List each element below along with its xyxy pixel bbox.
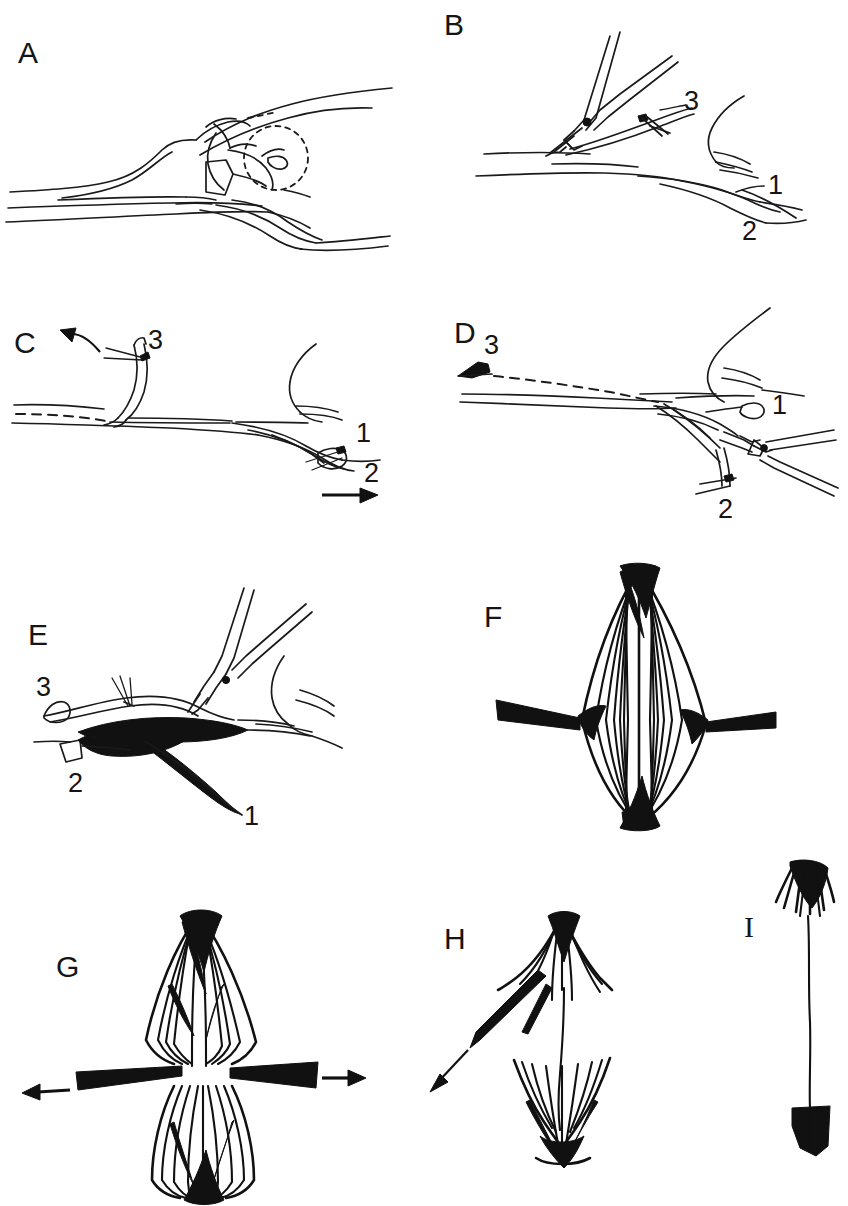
panel-letter-e: E xyxy=(28,620,49,650)
panel-c-drawing xyxy=(0,290,424,540)
panel-letter-g: G xyxy=(56,952,80,982)
panel-letter-f: F xyxy=(484,602,503,632)
panel-d: D xyxy=(424,290,848,540)
panel-e-drawing xyxy=(0,560,424,860)
panel-e: E xyxy=(0,560,424,860)
arrow-left xyxy=(22,1084,70,1100)
panel-letter-c: C xyxy=(14,328,36,358)
figure-root: A xyxy=(0,0,848,1206)
panel-e-label-2: 2 xyxy=(68,770,83,797)
panel-g: G xyxy=(0,900,424,1206)
tendon-left xyxy=(496,700,580,730)
panel-letter-i: I xyxy=(744,912,755,942)
panel-c-label-3: 3 xyxy=(148,327,163,354)
panel-d-label-3: 3 xyxy=(484,332,499,359)
panel-b: B xyxy=(424,0,848,290)
panel-b-label-1: 1 xyxy=(768,172,783,199)
panel-letter-h: H xyxy=(444,924,466,954)
panel-c: C xyxy=(0,290,424,540)
panel-d-label-1: 1 xyxy=(772,392,787,419)
panel-letter-d: D xyxy=(454,318,476,348)
panel-d-label-2: 2 xyxy=(718,496,733,523)
panel-a: A xyxy=(0,0,424,290)
panel-letter-a: A xyxy=(18,38,39,68)
panel-c-label-2: 2 xyxy=(364,460,379,487)
arrow-down-left xyxy=(430,1050,468,1092)
panel-b-label-2: 2 xyxy=(742,218,757,245)
panel-h: H xyxy=(400,900,650,1206)
dashed-original-course xyxy=(16,414,106,421)
panel-i-drawing xyxy=(680,840,848,1206)
panel-i: I xyxy=(680,840,848,1206)
panel-g-drawing xyxy=(0,900,424,1206)
curved-arrow-upleft xyxy=(60,328,100,352)
panel-e-label-3: 3 xyxy=(36,674,51,701)
tendon-right-retracted xyxy=(230,1062,318,1088)
panel-f: F xyxy=(424,560,848,880)
panel-h-drawing xyxy=(400,900,650,1206)
panel-c-label-1: 1 xyxy=(356,420,371,447)
panel-b-label-3: 3 xyxy=(684,88,699,115)
tendon-right xyxy=(706,712,776,732)
panel-b-drawing xyxy=(424,0,848,290)
dashed-removed-course xyxy=(494,376,658,402)
tendon-left-retracted xyxy=(76,1066,182,1090)
thread-shaft xyxy=(808,916,810,1108)
panel-e-label-1: 1 xyxy=(244,803,259,830)
panel-letter-b: B xyxy=(444,10,465,40)
straight-arrow-right xyxy=(322,488,378,503)
panel-a-drawing xyxy=(0,0,424,290)
arrow-right xyxy=(322,1070,366,1086)
